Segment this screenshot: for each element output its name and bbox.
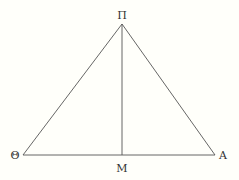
- label-left-theta: Θ: [10, 149, 19, 162]
- segment-pi-a: [122, 24, 215, 155]
- geometry-diagram: Π Θ A M: [0, 0, 239, 180]
- label-right-a: A: [218, 149, 228, 162]
- label-apex-pi: Π: [117, 9, 127, 22]
- label-foot-m: M: [116, 162, 127, 175]
- triangle-figure: Π Θ A M: [0, 0, 239, 180]
- segment-pi-theta: [23, 24, 122, 155]
